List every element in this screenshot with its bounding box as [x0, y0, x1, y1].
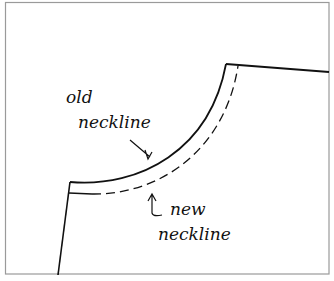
- new-neckline-label-line2: neckline: [158, 224, 231, 244]
- old-neckline-label-line2: neckline: [78, 112, 151, 132]
- old-neckline-label-line1: old: [66, 87, 93, 107]
- new-neckline-label-line1: new: [170, 199, 206, 219]
- side-seam-line: [58, 182, 70, 275]
- new-neckline-solid-start: [69, 193, 92, 194]
- new-neckline-pointer: [148, 194, 162, 216]
- old-neckline-pointer: [130, 140, 152, 159]
- shoulder-line: [226, 64, 329, 72]
- neckline-diagram: old neckline new neckline: [0, 0, 334, 281]
